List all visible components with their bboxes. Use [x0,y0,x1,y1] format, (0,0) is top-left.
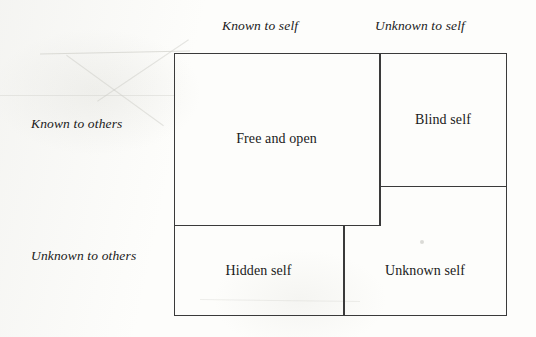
quadrant-label-hidden-self: Hidden self [225,263,291,279]
row-header-unknown-to-others: Unknown to others [31,248,136,264]
quadrant-label-blind-self: Blind self [415,112,471,128]
scan-artifact [40,50,190,54]
quadrant-unknown-self: Unknown self [343,225,507,316]
quadrant-blind-self: Blind self [379,53,507,186]
row-header-known-to-others: Known to others [31,116,123,132]
column-header-unknown-to-self: Unknown to self [375,18,465,34]
johari-window-diagram: Known to self Unknown to self Known to o… [0,0,536,337]
quadrant-label-free-and-open: Free and open [236,131,317,147]
column-header-known-to-self: Known to self [222,18,298,34]
scan-artifact [0,95,175,96]
quadrant-label-unknown-self: Unknown self [385,263,465,279]
quadrant-hidden-self: Hidden self [174,225,343,316]
quadrant-free-and-open: Free and open [174,53,379,225]
